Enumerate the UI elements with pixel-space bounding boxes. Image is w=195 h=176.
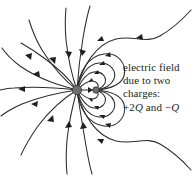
positive-charge [72,85,81,94]
field-line-left-7 [66,90,77,174]
caption-line-2: due to two [123,74,195,87]
caption-charge-conjunction: and − [143,101,171,113]
field-line-left-9 [0,87,77,90]
arrowhead-ul-3 [65,51,72,58]
field-line-left-4 [77,6,90,90]
arrowhead-lr-outer [97,139,104,144]
arrowhead-axis-1 [88,87,93,93]
loop-lower-2 [77,90,115,117]
arrowhead-loop-u1 [105,52,111,57]
caption-line-3: charges: [123,87,195,100]
arrowhead-ll-4 [80,122,87,129]
negative-charge [93,87,99,93]
caption-charge-prefix: +2 [123,101,135,113]
electric-field-diagram: electric field due to two charges: +2Q a… [0,0,195,176]
loop-upper-2 [77,63,115,90]
arrowhead-ur-outer [97,36,104,41]
caption-line-1: electric field [123,61,195,74]
field-line-left-5 [1,90,77,116]
arrowhead-loop-l1 [105,123,111,128]
caption-line-4: +2Q and −Q [123,101,195,114]
arrowhead-ll-3 [65,121,72,128]
arrowhead-left-horiz [18,86,25,92]
arrowhead-ll-2 [47,115,54,122]
arrowhead-ll-1 [31,101,38,107]
caption-charge-symbol-1: Q [135,101,143,113]
figure-caption: electric field due to two charges: +2Q a… [123,61,195,114]
arrowhead-ul-5 [25,53,32,60]
caption-charge-symbol-2: Q [171,101,179,113]
